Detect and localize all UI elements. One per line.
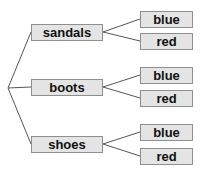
- node-sandals: sandals: [31, 24, 103, 41]
- node-boots-blue: blue: [140, 67, 193, 84]
- node-shoes-red: red: [140, 148, 193, 165]
- node-shoes: shoes: [31, 136, 103, 153]
- node-sandals-blue: blue: [140, 11, 193, 28]
- node-boots: boots: [31, 79, 103, 96]
- node-boots-red: red: [140, 90, 193, 107]
- node-sandals-red: red: [140, 33, 193, 50]
- node-shoes-blue: blue: [140, 124, 193, 141]
